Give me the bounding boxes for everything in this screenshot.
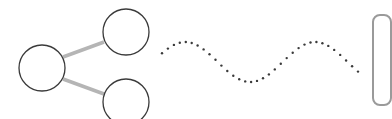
wave-dot (220, 64, 222, 66)
wave-dot (208, 53, 210, 55)
wave-dot (196, 44, 198, 46)
wave-dot (351, 65, 353, 67)
wave-dot (262, 77, 264, 79)
wave-dot (303, 43, 305, 45)
wave-dot (161, 52, 163, 54)
wave-dot (244, 80, 246, 82)
wave-dot (357, 70, 359, 72)
wave-dot (173, 44, 175, 46)
link-line-top (63, 42, 104, 57)
wave-dot (214, 59, 216, 61)
dotted-wave-icon (161, 41, 359, 83)
wave-dot (226, 70, 228, 72)
wave-dot (191, 42, 193, 44)
wave-dot (179, 42, 181, 44)
wave-dot (185, 41, 187, 43)
wave-dot (250, 81, 252, 83)
wave-dot (345, 59, 347, 61)
wave-dot (268, 73, 270, 75)
wave-dot (274, 68, 276, 70)
node-bottom-right (103, 79, 149, 119)
wave-dot (292, 52, 294, 54)
wave-dot (167, 47, 169, 49)
node-left (19, 45, 65, 91)
wave-dot (238, 78, 240, 80)
link-line-bottom (63, 79, 104, 94)
wave-dot (280, 63, 282, 65)
partial-card-edge (372, 14, 392, 106)
wave-dot (333, 49, 335, 51)
wave-dot (256, 80, 258, 82)
wave-dot (309, 41, 311, 43)
wave-dot (339, 54, 341, 56)
wave-dot (321, 42, 323, 44)
share-network-icon (19, 9, 149, 119)
wave-dot (327, 45, 329, 47)
wave-dot (202, 48, 204, 50)
wave-dot (315, 41, 317, 43)
wave-dot (232, 75, 234, 77)
wave-dot (297, 47, 299, 49)
node-top-right (103, 9, 149, 55)
wave-dot (286, 57, 288, 59)
